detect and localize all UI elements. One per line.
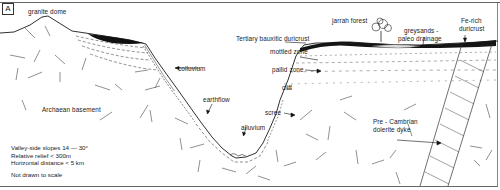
label-granite-dome: granite dome — [28, 9, 67, 15]
left-layer-3 — [82, 46, 150, 60]
note-not-to-scale: Not drawn to scale — [11, 172, 62, 178]
note-relative-relief: Relative relief < 300m — [11, 153, 71, 159]
label-archaean-basement: Archaean basement — [42, 107, 101, 113]
scree-band — [267, 100, 283, 142]
label-earthflow: earthflow — [203, 97, 230, 103]
label-scree: scree — [265, 110, 281, 116]
label-duricrust: duricrust — [459, 26, 484, 32]
label-cliff: cliff — [282, 85, 292, 91]
alluvium-fill — [230, 154, 246, 156]
label-paleo-drainage: paleo drainage — [398, 36, 442, 42]
label-pre-cambrian: Pre - Cambrian — [373, 119, 418, 125]
label-greysands: greysands - — [404, 28, 439, 34]
label-alluvium: alluvium — [241, 125, 265, 131]
mottled-layer — [300, 52, 496, 56]
left-duricrust-lens — [88, 34, 144, 44]
note-horizontal-distance: Horizontal distance < 5 km — [11, 160, 84, 166]
jarrah-tree-icon — [372, 18, 392, 42]
panel-label: A — [2, 3, 14, 15]
label-tertiary-duricrust: Tertiary bauxitic duricrust — [236, 36, 309, 42]
pallid-layer-1 — [296, 60, 496, 63]
dolerite-dyke — [420, 44, 492, 186]
label-fe-rich: Fe-rich — [461, 18, 482, 24]
label-colluvium: colluvium — [178, 66, 206, 72]
colluvium-band — [143, 46, 195, 122]
label-mottled-zone: mottled zone — [270, 49, 308, 55]
geological-cross-section: A granite dome colluvium Archaean baseme… — [0, 0, 500, 190]
label-dolerite-dyke: dolerite dyke — [373, 127, 411, 133]
note-valley-slopes: Valley-side slopes 14 — 30° — [11, 145, 88, 151]
left-layer-4 — [90, 54, 158, 70]
colluvium-band-inner — [145, 45, 175, 91]
leader-lines — [175, 35, 467, 145]
label-jarrah-forest: jarrah forest — [332, 18, 367, 24]
label-pallid-zone: pallid zone — [272, 67, 304, 73]
